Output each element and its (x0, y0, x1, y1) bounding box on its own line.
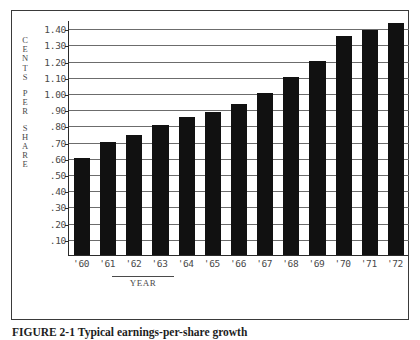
y-axis-tick-label: .30 (24, 203, 66, 213)
y-axis-tick-label: .70 (24, 139, 66, 149)
x-axis-tick-label: '62 (120, 258, 146, 269)
bar (126, 135, 142, 255)
figure-number: FIGURE 2-1 (12, 326, 75, 338)
bar (205, 112, 221, 255)
x-axis-tick-labels: '60'61'62'63'64'65'66'67'68'69'70'71'72 (68, 258, 408, 274)
plot-area: .10.20.30.40.50.60.70.80.901.001.101.201… (68, 21, 408, 256)
bar (74, 158, 90, 255)
y-axis-tick-label: .80 (24, 122, 66, 132)
bar (231, 104, 247, 255)
y-axis-tick-label: .40 (24, 187, 66, 197)
y-axis-tick-label: 1.00 (24, 90, 66, 100)
x-axis-tick-label: '60 (68, 258, 94, 269)
bar-series (69, 20, 409, 255)
bar (152, 125, 168, 255)
bar (336, 36, 352, 255)
x-axis-tick-label: '66 (225, 258, 251, 269)
x-axis-tick-label: '69 (303, 258, 329, 269)
y-axis-tick-label: .50 (24, 171, 66, 181)
x-axis-tick-label: '63 (146, 258, 172, 269)
y-axis-tick-label: .90 (24, 106, 66, 116)
x-axis-tick-label: '61 (94, 258, 120, 269)
x-axis-title: YEAR (112, 276, 174, 289)
x-axis-tick-label: '64 (173, 258, 199, 269)
bar (257, 93, 273, 255)
y-axis-tick-label: .10 (24, 236, 66, 246)
y-axis-tick-label: .60 (24, 155, 66, 165)
x-axis-tick-label: '67 (251, 258, 277, 269)
x-axis-tick-label: '70 (330, 258, 356, 269)
bar (179, 117, 195, 255)
y-axis-tick-label: 1.30 (24, 41, 66, 51)
y-axis-tick-label: 1.40 (24, 25, 66, 35)
bar (388, 23, 404, 255)
x-axis-tick-label: '68 (277, 258, 303, 269)
figure-caption: FIGURE 2-1 Typical earnings-per-share gr… (12, 326, 412, 339)
x-axis-tick-label: '65 (199, 258, 225, 269)
bar (283, 77, 299, 255)
x-axis-tick-label: '72 (382, 258, 408, 269)
y-axis-tick-label: .20 (24, 220, 66, 230)
y-axis-tick-label: 1.20 (24, 58, 66, 68)
figure-caption-text: Typical earnings-per-share growth (78, 326, 248, 338)
y-axis-tick-label: 1.10 (24, 74, 66, 84)
bar (362, 30, 378, 255)
x-axis-tick-label: '71 (356, 258, 382, 269)
figure-root: CENTSPERSHARE .10.20.30.40.50.60.70.80.9… (0, 0, 420, 340)
bar (309, 61, 325, 255)
bar (100, 142, 116, 255)
